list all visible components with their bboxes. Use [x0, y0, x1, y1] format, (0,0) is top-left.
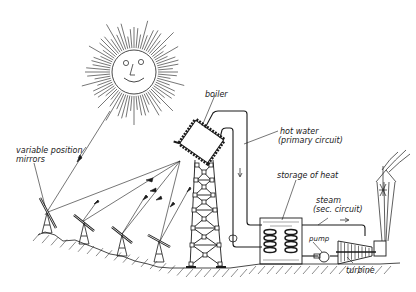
label-steam-line2: (sec. circuit) — [313, 205, 363, 214]
sun-ray — [100, 43, 116, 56]
heat-storage-tank — [260, 218, 302, 264]
hatch-line — [168, 265, 175, 273]
sun-ray — [138, 35, 140, 49]
tower — [186, 160, 226, 267]
tower-joint — [215, 226, 219, 230]
sun-ray — [158, 69, 173, 70]
hatch-line — [177, 268, 184, 276]
sun-ray — [136, 28, 138, 48]
label-steam-line1: steam — [316, 196, 341, 205]
mirror-1 — [40, 198, 56, 233]
sun-ray — [130, 29, 132, 48]
hatch-line — [33, 233, 40, 241]
tower-joint — [191, 226, 195, 230]
sun-mouth — [124, 78, 144, 82]
hatch-line — [222, 269, 229, 277]
sun-eye-right — [138, 59, 143, 64]
tower-joint — [202, 185, 206, 189]
label-hot-water-line1: hot water — [280, 127, 319, 136]
sun-ray — [155, 47, 178, 61]
flow-arrow-right — [340, 218, 349, 222]
sun-disc — [112, 50, 156, 94]
ground-hatching — [33, 233, 391, 277]
sun-ray — [106, 93, 122, 121]
tower-joints — [189, 163, 222, 266]
flow-arrow-down — [238, 168, 242, 177]
sun-ray — [86, 68, 110, 70]
hatch-line — [339, 266, 346, 274]
hatch-line — [303, 266, 310, 274]
sun-ray — [104, 37, 118, 54]
sun-ray — [158, 74, 177, 76]
tower-joint — [202, 170, 206, 174]
hatch-line — [186, 269, 193, 277]
hatch-line — [294, 266, 301, 274]
sun — [82, 21, 184, 125]
hatch-line — [258, 266, 265, 274]
hatch-line — [249, 266, 256, 274]
sun-ray — [136, 96, 137, 110]
tower-joint — [213, 208, 217, 212]
mirror-3 — [112, 227, 132, 256]
hatch-line — [195, 269, 202, 277]
tower-joint — [195, 163, 199, 167]
boiler — [174, 117, 224, 165]
hatch-line — [285, 266, 292, 274]
label-mirrors-line1: variable position — [16, 146, 83, 155]
tower-joint — [211, 193, 215, 197]
sun-ray — [87, 74, 110, 76]
sun-ray — [146, 93, 159, 116]
solar-power-plant-diagram: variable position mirrors boiler hot wat… — [0, 0, 416, 292]
hatch-line — [78, 244, 85, 252]
hatch-line — [240, 269, 247, 277]
hatch-line — [384, 266, 391, 274]
sun-ray — [101, 39, 117, 55]
hatch-line — [204, 269, 211, 277]
tower-joint — [193, 193, 197, 197]
sun-rays — [82, 21, 184, 125]
tower-joint — [190, 243, 194, 247]
sun-ray — [111, 90, 119, 99]
label-pump: pump — [308, 235, 330, 243]
pump — [314, 252, 329, 262]
hatch-line — [276, 266, 283, 274]
sun-ray — [95, 76, 111, 79]
hatch-line — [267, 266, 274, 274]
tower-joint — [203, 253, 207, 257]
label-boiler: boiler — [205, 90, 228, 99]
tower-joint — [210, 178, 214, 182]
sun-ray — [148, 92, 162, 112]
sun-ray — [156, 56, 168, 61]
hatch-line — [42, 235, 49, 243]
tower-joint — [218, 262, 222, 266]
tower-joint — [202, 235, 206, 239]
hatch-line — [375, 266, 382, 274]
sun-ray — [128, 37, 130, 49]
turbine — [336, 241, 376, 264]
label-hot-water-line2: (primary circuit) — [278, 136, 343, 145]
sun-ray — [131, 96, 132, 111]
heat-exchanger-coil-left — [264, 230, 276, 253]
sun-ray — [151, 32, 174, 55]
generator — [374, 241, 386, 256]
hatch-line — [231, 269, 238, 277]
sun-eye-left — [123, 60, 128, 65]
tower-joint — [202, 200, 206, 204]
label-turbine: turbine — [346, 266, 375, 275]
sun-ray — [144, 94, 149, 105]
sun-ray — [122, 95, 128, 118]
tower-joint — [217, 243, 221, 247]
light-rays — [45, 111, 191, 241]
label-storage: storage of heat — [277, 171, 339, 180]
hatch-line — [132, 257, 139, 265]
sun-ray — [98, 89, 117, 108]
hatch-line — [87, 246, 94, 254]
sun-ray — [154, 51, 164, 58]
sun-ray — [89, 46, 113, 60]
tower-joint — [192, 208, 196, 212]
mirror-4 — [148, 235, 170, 262]
hatch-line — [312, 266, 319, 274]
hatch-line — [330, 266, 337, 274]
label-mirrors-line2: mirrors — [16, 155, 45, 164]
hatch-line — [213, 269, 220, 277]
